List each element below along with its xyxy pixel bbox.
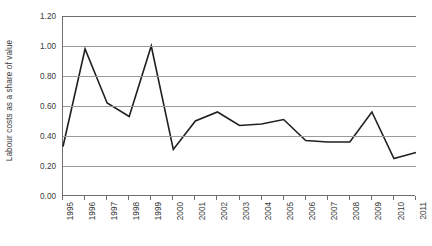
x-axis-tick-label: 2008 xyxy=(352,202,361,220)
y-axis-tick-labels: 0.000.200.400.600.801.001.20 xyxy=(22,0,58,246)
y-axis-tick-label: 0.60 xyxy=(40,102,56,111)
x-axis-tick-label: 2010 xyxy=(397,202,406,220)
plot-area xyxy=(62,16,415,196)
y-axis-tick-label: 0.80 xyxy=(40,72,56,81)
x-axis-tick-label: 1995 xyxy=(66,202,75,220)
y-axis-title-text: Labour costs as a share of value xyxy=(6,39,15,161)
x-axis-tick-mark xyxy=(393,196,394,200)
x-axis-tick-mark xyxy=(106,196,107,200)
x-axis-tick-label: 2003 xyxy=(242,202,251,220)
x-axis-tick-mark xyxy=(194,196,195,200)
x-axis-tick-label: 2004 xyxy=(264,202,273,220)
y-axis-tick-label: 1.20 xyxy=(40,12,56,21)
gridline xyxy=(63,46,416,47)
x-axis-tick-label: 1999 xyxy=(154,202,163,220)
x-axis-tick-labels: 1995199619971998199920002001200220032004… xyxy=(62,202,415,246)
x-axis-tick-mark xyxy=(84,196,85,200)
x-axis-tick-label: 2011 xyxy=(419,202,428,220)
gridline xyxy=(63,166,416,167)
x-axis-tick-mark xyxy=(172,196,173,200)
x-axis-tick-mark xyxy=(305,196,306,200)
x-axis-tick-label: 2006 xyxy=(308,202,317,220)
x-axis-tick-mark xyxy=(349,196,350,200)
x-axis-tick-mark xyxy=(261,196,262,200)
x-axis-tick-mark xyxy=(327,196,328,200)
x-axis-tick-mark xyxy=(128,196,129,200)
gridline xyxy=(63,16,416,17)
x-axis-tick-label: 1998 xyxy=(132,202,141,220)
x-axis-tick-label: 2005 xyxy=(286,202,295,220)
x-axis-tick-mark xyxy=(371,196,372,200)
y-axis-tick-label: 1.00 xyxy=(40,42,56,51)
x-axis-tick-label: 2002 xyxy=(220,202,229,220)
x-axis-tick-mark xyxy=(150,196,151,200)
y-axis-tick-label: 0.40 xyxy=(40,132,56,141)
x-axis-tick-mark xyxy=(283,196,284,200)
series-polyline xyxy=(63,46,416,159)
gridline xyxy=(63,76,416,77)
gridline xyxy=(63,106,416,107)
y-axis-tick-label: 0.00 xyxy=(40,192,56,201)
x-axis-tick-label: 1997 xyxy=(110,202,119,220)
x-axis-tick-label: 1996 xyxy=(88,202,97,220)
y-axis-title: Labour costs as a share of value xyxy=(0,0,20,200)
line-chart: Labour costs as a share of value 0.000.2… xyxy=(0,0,432,246)
x-axis-tick-label: 2009 xyxy=(374,202,383,220)
x-axis-tick-label: 2000 xyxy=(176,202,185,220)
x-axis-tick-label: 2001 xyxy=(198,202,207,220)
x-axis-tick-mark xyxy=(62,196,63,200)
y-axis-tick-label: 0.20 xyxy=(40,162,56,171)
x-axis-tick-label: 2007 xyxy=(330,202,339,220)
x-axis-tick-mark xyxy=(239,196,240,200)
x-axis-tick-mark xyxy=(415,196,416,200)
x-axis-tick-mark xyxy=(216,196,217,200)
gridline xyxy=(63,136,416,137)
